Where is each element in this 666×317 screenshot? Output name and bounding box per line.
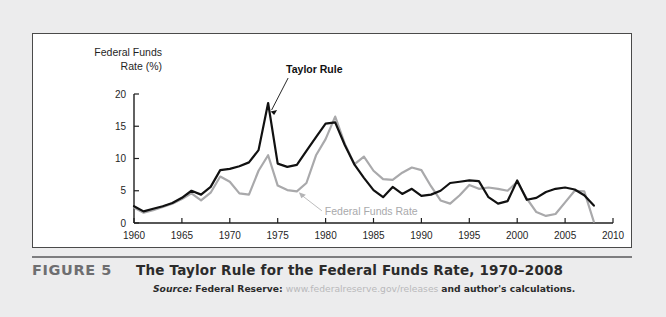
x-axis-tick-label: 2010 [602, 230, 625, 241]
figure-page: 0510152019601965197019751980198519901995… [0, 0, 666, 317]
y-axis-tick-label: 20 [115, 89, 127, 100]
y-axis-title-line1: Federal Funds [94, 46, 162, 58]
x-axis-tick-label: 1965 [171, 230, 194, 241]
x-axis-tick-label: 1985 [362, 230, 385, 241]
figure-source: Source: Federal Reserve: www.federalrese… [136, 283, 638, 294]
source-tail: and author's calculations. [441, 283, 575, 294]
figure-title: The Taylor Rule for the Federal Funds Ra… [136, 263, 638, 279]
x-axis-tick-label: 1990 [410, 230, 433, 241]
source-organization: Federal Reserve: [195, 283, 282, 294]
x-axis-tick-label: 1980 [314, 230, 337, 241]
line-chart: 0510152019601965197019751980198519901995… [33, 34, 631, 247]
x-axis-tick-label: 2000 [506, 230, 529, 241]
annotation-taylor-rule-label: Taylor Rule [286, 63, 343, 75]
y-axis-tick-label: 5 [120, 185, 126, 196]
figure-number: FIGURE 5 [32, 262, 136, 278]
chart-panel: 0510152019601965197019751980198519901995… [32, 33, 632, 248]
source-label: Source: [153, 283, 192, 294]
x-axis-tick-label: 2005 [554, 230, 577, 241]
annotation-taylor-rule-arrowhead [271, 110, 278, 115]
annotation-federal-funds-rate-label: Federal Funds Rate [325, 205, 418, 217]
y-axis-tick-label: 10 [115, 153, 127, 164]
x-axis-tick-label: 1970 [219, 230, 242, 241]
source-url-link[interactable]: www.federalreserve.gov/releases [286, 283, 439, 294]
x-axis-tick-label: 1995 [458, 230, 481, 241]
chart-axes [134, 94, 613, 223]
annotation-taylor-rule-leader [272, 78, 289, 110]
y-axis-tick-label: 0 [120, 218, 126, 229]
caption-divider [32, 256, 632, 258]
x-axis-tick-label: 1960 [123, 230, 146, 241]
x-axis-tick-label: 1975 [267, 230, 290, 241]
y-axis-title-line2: Rate (%) [121, 60, 162, 72]
figure-caption: FIGURE 5 The Taylor Rule for the Federal… [32, 262, 638, 294]
y-axis-tick-label: 15 [115, 121, 127, 132]
